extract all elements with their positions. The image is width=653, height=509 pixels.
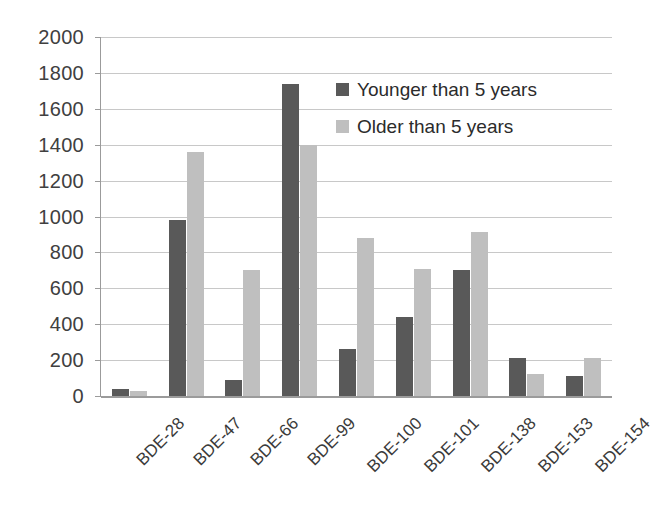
x-label-slot: BDE-138: [441, 396, 498, 506]
legend-label: Older than 5 years: [357, 117, 513, 136]
bar-bde-99-series-1[interactable]: [300, 145, 317, 396]
y-tick-label: 1800: [38, 63, 84, 83]
bar-group: [101, 37, 158, 396]
y-tick-label: 1000: [38, 207, 84, 227]
bar-bde-154-series-0[interactable]: [566, 376, 583, 396]
bar-bde-99-series-0[interactable]: [282, 84, 299, 396]
legend-entry[interactable]: Younger than 5 years: [336, 80, 537, 99]
y-tick-label: 600: [50, 278, 84, 298]
y-tick-label: 0: [73, 386, 84, 406]
bar-bde-66-series-1[interactable]: [243, 270, 260, 396]
x-label-slot: BDE-47: [157, 396, 214, 506]
legend-label: Younger than 5 years: [357, 80, 537, 99]
bar-bde-138-series-0[interactable]: [453, 270, 470, 396]
y-tick-label: 2000: [38, 27, 84, 47]
bar-bde-101-series-1[interactable]: [414, 269, 431, 396]
y-tick-label: 400: [50, 314, 84, 334]
x-label-slot: BDE-154: [555, 396, 612, 506]
x-tick-label: BDE-154: [592, 414, 653, 475]
y-axis: 2000180016001400120010008006004002000: [0, 37, 92, 396]
x-label-slot: BDE-101: [384, 396, 441, 506]
bar-bde-101-series-0[interactable]: [396, 317, 413, 396]
bar-bde-138-series-1[interactable]: [471, 232, 488, 396]
y-tick-label: 800: [50, 242, 84, 262]
bar-bde-154-series-1[interactable]: [584, 358, 601, 396]
y-tick-label: 1600: [38, 99, 84, 119]
legend-swatch-icon: [336, 83, 349, 96]
bar-bde-47-series-1[interactable]: [187, 152, 204, 396]
bar-group: [158, 37, 215, 396]
bar-bde-153-series-1[interactable]: [527, 374, 544, 396]
bar-bde-47-series-0[interactable]: [169, 220, 186, 396]
chart-legend: Younger than 5 yearsOlder than 5 years: [336, 80, 537, 154]
x-label-slot: BDE-153: [498, 396, 555, 506]
x-label-slot: BDE-28: [100, 396, 157, 506]
bar-bde-66-series-0[interactable]: [225, 380, 242, 396]
bar-bde-28-series-0[interactable]: [112, 389, 129, 396]
bar-bde-153-series-0[interactable]: [509, 358, 526, 396]
legend-entry[interactable]: Older than 5 years: [336, 117, 537, 136]
y-tick-label: 1400: [38, 135, 84, 155]
y-tick-label: 1200: [38, 171, 84, 191]
bar-group: [215, 37, 272, 396]
bar-bde-100-series-0[interactable]: [339, 349, 356, 396]
legend-swatch-icon: [336, 120, 349, 133]
x-label-slot: BDE-66: [214, 396, 271, 506]
x-label-slot: BDE-99: [271, 396, 328, 506]
bar-bde-100-series-1[interactable]: [357, 238, 374, 396]
bar-group: [555, 37, 612, 396]
y-tick-label: 200: [50, 350, 84, 370]
x-axis: BDE-28BDE-47BDE-66BDE-99BDE-100BDE-101BD…: [100, 396, 612, 506]
bar-group: [271, 37, 328, 396]
x-label-slot: BDE-100: [328, 396, 385, 506]
